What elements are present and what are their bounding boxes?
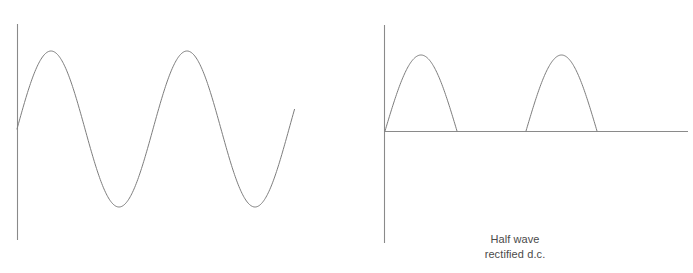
caption-line-1: Half wave: [430, 232, 600, 247]
rectified-chart-caption: Half wave rectified d.c.: [430, 232, 600, 262]
caption-line-2: rectified d.c.: [430, 247, 600, 262]
